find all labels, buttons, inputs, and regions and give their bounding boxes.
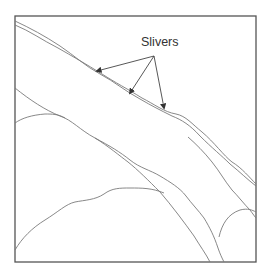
sliver-polygons-diagram: Slivers <box>0 0 267 275</box>
map-frame <box>15 16 256 262</box>
slivers-label: Slivers <box>141 35 179 49</box>
